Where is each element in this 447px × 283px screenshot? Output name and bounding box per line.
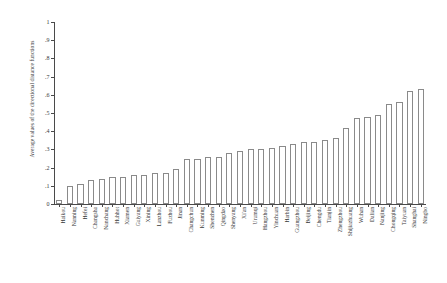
bar: [131, 175, 137, 204]
bar: [141, 175, 147, 204]
x-tick-label: Beijing: [306, 207, 312, 223]
x-tick-label: Nanjing: [380, 207, 386, 225]
x-tick-label: Fuzhou: [168, 207, 174, 224]
x-tick-label: Shijiazhuang: [348, 207, 354, 236]
bar: [173, 169, 179, 204]
x-tick-label: Kunming: [200, 207, 206, 228]
bar: [120, 177, 126, 204]
bar: [279, 146, 285, 204]
x-tick-label: Guangzhou: [295, 207, 301, 233]
y-tick-label: .6: [45, 92, 50, 98]
y-tick: [51, 95, 54, 96]
plot-area: 0.1.2.3.4.5.6.7.8.91: [54, 22, 426, 204]
y-tick: [51, 131, 54, 132]
x-tick-label: Harbin: [285, 207, 291, 223]
bar: [194, 159, 200, 205]
y-tick-label: .2: [45, 165, 50, 171]
bar: [67, 186, 73, 204]
x-tick-label: Hefei: [83, 207, 89, 219]
bar: [88, 180, 94, 204]
x-tick-label: Urumqi: [253, 207, 259, 224]
y-tick: [51, 168, 54, 169]
y-tick: [51, 77, 54, 78]
y-tick-label: 0: [47, 201, 50, 207]
x-tick-label: Wuhan: [359, 207, 365, 223]
bar-series: [54, 22, 426, 204]
bar: [418, 89, 424, 204]
bar: [322, 140, 328, 204]
y-tick: [51, 149, 54, 150]
x-tick-label: Nanchang: [104, 207, 110, 230]
x-tick-label: Lanzhou: [157, 207, 163, 227]
x-tick-label: Dalian: [370, 207, 376, 222]
x-tick-label: Taiyuan: [402, 207, 408, 225]
x-tick-label: Xiamen: [125, 207, 131, 225]
x-axis-labels: HaikouNanningHefeiChangshaNanchangHuhhot…: [54, 207, 426, 283]
bar: [386, 104, 392, 204]
bar: [205, 157, 211, 204]
bar: [333, 138, 339, 204]
bar: [375, 115, 381, 204]
x-tick-label: Qingdao: [221, 207, 227, 226]
x-tick-label: Shenzhen: [210, 207, 216, 229]
y-tick-label: .4: [45, 128, 50, 134]
bar: [343, 128, 349, 204]
x-tick-label: Chongqing: [391, 207, 397, 232]
bar: [109, 177, 115, 204]
y-tick: [51, 40, 54, 41]
x-tick-label: Hangzhou: [263, 207, 269, 230]
x-tick-label: Jinan: [178, 207, 184, 219]
bar: [163, 173, 169, 204]
x-tick-label: Guiyang: [136, 207, 142, 226]
y-tick-label: .5: [45, 110, 50, 116]
bar: [311, 142, 317, 204]
bar: [248, 149, 254, 204]
x-tick-label: Xi'an: [242, 207, 248, 219]
x-tick-label: Tianjin: [327, 207, 333, 223]
bar: [184, 159, 190, 205]
y-tick-label: .8: [45, 55, 50, 61]
bar: [354, 118, 360, 204]
x-tick-label: Yinchuan: [274, 207, 280, 228]
y-tick-label: .7: [45, 74, 50, 80]
y-axis-title: Average values of the directional distan…: [29, 9, 35, 189]
y-tick: [51, 204, 54, 205]
bar: [152, 173, 158, 204]
bar: [99, 179, 105, 204]
x-tick-label: Chengdu: [317, 207, 323, 227]
bar: [290, 144, 296, 204]
y-tick: [51, 22, 54, 23]
y-tick: [51, 186, 54, 187]
y-tick-label: .3: [45, 146, 50, 152]
x-tick-label: Zhengzhou: [338, 207, 344, 232]
y-tick: [51, 113, 54, 114]
x-tick-label: Shenyang: [231, 207, 237, 229]
bar: [364, 117, 370, 204]
x-tick-label: Huhhot: [115, 207, 121, 224]
x-tick-label: Changchun: [189, 207, 195, 232]
bar: [216, 157, 222, 204]
bar: [396, 102, 402, 204]
bar: [226, 153, 232, 204]
bar: [77, 184, 83, 204]
bar: [258, 149, 264, 204]
bar-chart: Average values of the directional distan…: [0, 0, 447, 283]
y-tick-label: .9: [45, 37, 50, 43]
y-tick-label: .1: [45, 183, 50, 189]
x-tick-label: Shanghai: [412, 207, 418, 228]
x-tick-label: Changsha: [93, 207, 99, 229]
x-tick-label: Nanning: [72, 207, 78, 226]
y-tick-label: 1: [47, 19, 50, 25]
x-tick-label: Xining: [146, 207, 152, 223]
bar: [237, 151, 243, 204]
y-tick: [51, 58, 54, 59]
bar: [407, 91, 413, 204]
bar: [301, 142, 307, 204]
bar: [269, 148, 275, 204]
x-tick-label: Haikou: [61, 207, 67, 223]
x-tick-label: Ningbo: [423, 207, 429, 224]
